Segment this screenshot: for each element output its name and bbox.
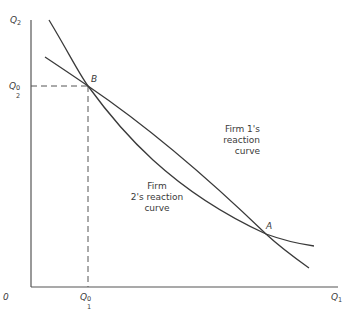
firm-2-label-line-3: curve — [127, 203, 187, 214]
firm-2-label-line-1: Firm — [127, 181, 187, 192]
x-axis-label-sub: 1 — [338, 296, 342, 304]
firm-1-label-line-2: reaction — [190, 135, 260, 146]
x-equilibrium-label: Q01 — [80, 293, 93, 302]
firm-2-curve-label: Firm 2's reaction curve — [127, 181, 187, 214]
x-equilibrium-sub: 1 — [87, 304, 91, 311]
point-b-label: B — [91, 75, 97, 84]
firm-1-curve-label: Firm 1's reaction curve — [190, 124, 260, 157]
origin-label: 0 — [3, 293, 9, 302]
firm-2-label-line-2: 2's reaction — [127, 192, 187, 203]
y-axis-label: Q2 — [10, 16, 21, 25]
firm-1-label-line-3: curve — [190, 146, 260, 157]
diagram-canvas — [0, 0, 352, 315]
x-equilibrium-sup: 0 — [87, 296, 91, 303]
y-equilibrium-label: Q02 — [9, 82, 22, 91]
x-equilibrium-base: Q — [80, 292, 87, 302]
y-equilibrium-sub: 2 — [16, 93, 20, 100]
firm-1-label-line-1: Firm 1's — [190, 124, 260, 135]
point-a-label: A — [266, 222, 272, 231]
x-axis-label: Q1 — [331, 293, 342, 302]
y-axis-label-sub: 2 — [17, 19, 21, 27]
y-equilibrium-base: Q — [9, 81, 16, 91]
y-equilibrium-sup: 0 — [16, 85, 20, 92]
firm-1-reaction-curve — [45, 57, 309, 268]
